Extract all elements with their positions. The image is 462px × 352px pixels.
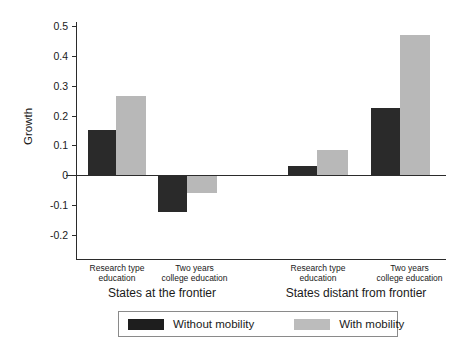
y-tick-label-0.1: 0.1 (28, 139, 68, 151)
legend-swatch-icon-without-mobility (128, 319, 164, 330)
y-tick-mark--0.1 (72, 205, 76, 206)
y-tick-label-0.4: 0.4 (28, 50, 68, 62)
category-label-line2: education (278, 273, 358, 283)
x-axis-line (76, 259, 446, 260)
category-label-line2: college education (362, 273, 457, 283)
y-tick-mark-0.5 (72, 26, 76, 27)
legend-swatch-icon-with-mobility (294, 319, 330, 330)
bar-frontier-research-without-mobility (88, 130, 116, 175)
y-axis-line (76, 22, 77, 259)
y-tick-mark-0.4 (72, 56, 76, 57)
y-tick-label-0.5: 0.5 (28, 20, 68, 32)
bar-frontier-twoyears-without-mobility (158, 176, 187, 212)
bar-distant-research-with-mobility (317, 150, 348, 175)
category-label-line1: Research type (77, 263, 157, 273)
y-tick-label-0: 0 (28, 169, 68, 181)
category-label-frontier-research: Research type education (77, 263, 157, 283)
bar-distant-twoyears-with-mobility (400, 35, 430, 175)
category-label-frontier-twoyears: Two years college education (147, 263, 242, 283)
bar-frontier-research-with-mobility (116, 96, 146, 175)
bar-distant-twoyears-without-mobility (371, 108, 400, 175)
bar-frontier-twoyears-with-mobility (187, 176, 217, 193)
y-tick-mark-0.3 (72, 86, 76, 87)
legend: Without mobility With mobility (118, 311, 398, 337)
legend-label-without-mobility: Without mobility (173, 318, 254, 330)
bar-chart: Growth 0.5 0.4 0.3 0.2 0.1 0 -0.1 -0.2 R… (0, 0, 462, 352)
zero-baseline (66, 175, 446, 176)
y-tick-label--0.1: -0.1 (28, 199, 68, 211)
category-label-distant-research: Research type education (278, 263, 358, 283)
y-tick-label--0.2: -0.2 (28, 229, 68, 241)
category-label-line1: Two years (362, 263, 457, 273)
legend-item-with-mobility: With mobility (294, 318, 404, 330)
category-label-line2: college education (147, 273, 242, 283)
y-tick-label-0.2: 0.2 (28, 110, 68, 122)
category-label-line1: Research type (278, 263, 358, 273)
bar-distant-research-without-mobility (288, 166, 317, 175)
legend-label-with-mobility: With mobility (339, 318, 404, 330)
category-label-line2: education (77, 273, 157, 283)
legend-item-without-mobility: Without mobility (128, 318, 254, 330)
y-tick-mark-0.2 (72, 116, 76, 117)
group-label-frontier: States at the frontier (72, 286, 252, 300)
group-label-distant: States distant from frontier (256, 286, 456, 300)
category-label-distant-twoyears: Two years college education (362, 263, 457, 283)
y-tick-mark-0.1 (72, 145, 76, 146)
y-tick-mark--0.2 (72, 235, 76, 236)
category-label-line1: Two years (147, 263, 242, 273)
y-tick-label-0.3: 0.3 (28, 80, 68, 92)
